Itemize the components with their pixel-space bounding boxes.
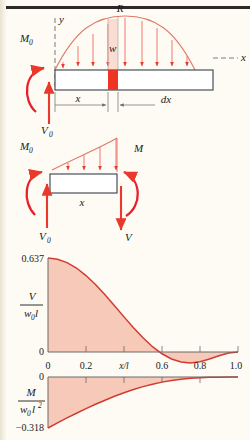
fbd-moment-right-arrow (124, 172, 138, 216)
resultant-label: R (116, 2, 124, 14)
moment-ytick-top: 0 (39, 371, 44, 382)
load-intensity-label: w (109, 42, 117, 54)
shear-ytick-top: 0.637 (22, 253, 45, 264)
shear-ylabel-denominator-tail: l (35, 307, 38, 319)
shear-ylabel-numerator: V (29, 290, 37, 302)
xtick-label-0: 0 (46, 360, 51, 371)
fbd-shear-right-label: V (125, 231, 133, 243)
diagram-top: y x w R (19, 2, 246, 139)
fbd-beam-body (50, 174, 117, 193)
x-axis-label: x (240, 51, 246, 63)
y-axis-label: y (58, 13, 64, 25)
shear-ytick-bottom: 0 (39, 346, 44, 357)
moment-diagram: 0 −0.318 M w 0 l 2 (16, 371, 238, 433)
beam-body (55, 70, 213, 90)
shear-reaction-label: V (41, 124, 49, 136)
figure-root: y x w R (0, 0, 250, 440)
shear-area-fill (48, 258, 238, 363)
dx-element (108, 70, 118, 90)
fbd-moment-left-arrow (27, 172, 42, 215)
xtick-label-2: 0.6 (156, 360, 169, 371)
moment-ylabel-denominator-sub: 0 (27, 409, 31, 418)
shear-reaction-sub: 0 (49, 130, 53, 139)
moment-ylabel-numerator: M (25, 386, 36, 398)
fbd-moment-right-label: M (133, 142, 144, 154)
fbd-moment-left-sub: 0 (29, 146, 33, 155)
fbd-shear-left-sub: 0 (47, 236, 51, 245)
xtick-label-4: 1.0 (230, 360, 243, 371)
fbd-load-arrows (68, 139, 116, 170)
dim-label-dx: dx (161, 93, 172, 105)
xtick-label-3: 0.8 (194, 360, 207, 371)
moment-ylabel-denominator-exp: 2 (38, 401, 42, 410)
dim-label-x: x (75, 92, 81, 104)
xtick-label-1: 0.2 (80, 360, 93, 371)
load-arrows (63, 18, 187, 68)
moment-reaction-sub: 0 (29, 38, 33, 47)
fbd-dim-label-x: x (79, 196, 85, 208)
fbd-load-curve (52, 138, 117, 170)
moment-area-fill (48, 377, 238, 428)
figure-canvas: y x w R (0, 0, 250, 440)
fbd-shear-left-label: V (39, 230, 47, 242)
diagram-mid: x M 0 V 0 M V (19, 138, 144, 245)
moment-reaction-arrow (27, 68, 44, 112)
shear-diagram: 0.637 0 V w 0 l 0 0.2 x/l 0.6 0.8 1.0 (20, 253, 242, 371)
moment-ylabel-denominator-tail: l (32, 403, 35, 415)
moment-ytick-bottom: −0.318 (16, 422, 44, 433)
x-axis-title: x/l (118, 361, 129, 371)
